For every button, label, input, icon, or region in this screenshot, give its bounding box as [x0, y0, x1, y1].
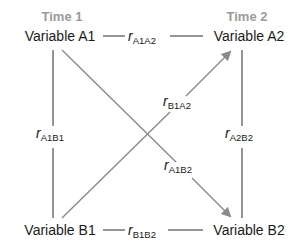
- correlation-b1b2-label: rB1B2: [128, 222, 156, 240]
- variable-a2-node: Variable A2: [214, 28, 285, 44]
- correlation-a1b1-label: rA1B1: [36, 125, 64, 143]
- arrow-a1b2-upper: [62, 50, 176, 162]
- correlation-a1a2-label: rA1A2: [128, 28, 156, 46]
- arrow-b1a2-upper: [186, 52, 230, 96]
- cross-lagged-panel-diagram: Time 1 Time 2 Variable A1 Variable A2 Va…: [0, 0, 290, 248]
- arrow-a1b2-lower: [192, 178, 230, 216]
- correlation-a1b2-label: rA1B2: [164, 157, 192, 175]
- variable-b2-node: Variable B2: [213, 222, 285, 238]
- time-2-label: Time 2: [227, 9, 268, 24]
- variable-a1-node: Variable A1: [25, 28, 96, 44]
- arrow-b1a2-lower: [62, 112, 170, 218]
- correlation-a2b2-label: rA2B2: [225, 125, 253, 143]
- variable-b1-node: Variable B1: [24, 222, 96, 238]
- time-1-label: Time 1: [42, 9, 83, 24]
